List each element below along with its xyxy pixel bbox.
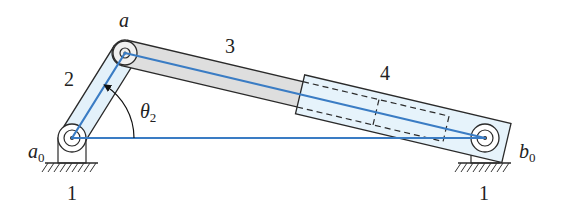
label-link-4: 4: [380, 62, 390, 84]
mechanism-diagram: a a0 b0 2 3 4 1 1 θ2: [0, 0, 571, 220]
label-joint-b0: b0: [519, 140, 536, 165]
label-joint-a0: a0: [28, 140, 45, 165]
label-ground-right: 1: [479, 182, 489, 204]
label-link-2: 2: [64, 68, 74, 90]
label-joint-a: a: [119, 9, 129, 31]
label-angle-theta2: θ2: [140, 100, 156, 125]
label-ground-left: 1: [67, 182, 77, 204]
label-link-3: 3: [225, 35, 235, 57]
